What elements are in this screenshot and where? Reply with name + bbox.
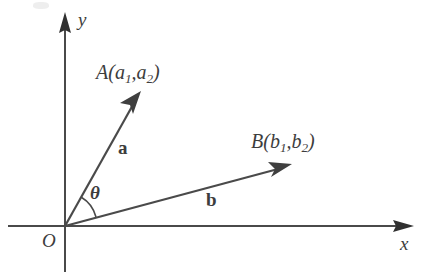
point-a-close-paren: ): [153, 61, 160, 83]
y-axis-label: y: [78, 10, 86, 29]
vector-a-shaft: [65, 103, 134, 226]
x-axis-arrowhead: [393, 220, 414, 232]
point-b-open-paren: (: [263, 130, 270, 152]
diagram-canvas: [0, 0, 423, 272]
point-b-label: B(b1,b2): [251, 131, 315, 154]
origin-label: O: [42, 231, 56, 250]
point-a-component-2: a: [136, 61, 146, 83]
point-b-component-2: b: [291, 130, 301, 152]
point-a-component-1: a: [115, 61, 125, 83]
y-axis-arrowhead: [59, 12, 71, 33]
vector-b-label: b: [206, 190, 217, 209]
vector-diagram: y x O A(a1,a2) B(b1,b2) a b θ: [0, 0, 423, 272]
point-a-open-paren: (: [108, 61, 115, 83]
point-b-close-paren: ): [308, 130, 315, 152]
vector-b-arrowhead: [268, 162, 292, 177]
point-a-label: A(a1,a2): [96, 62, 160, 85]
vector-a-label: a: [118, 138, 128, 157]
x-axis-label: x: [400, 234, 408, 253]
angle-theta-label: θ: [90, 183, 100, 202]
point-a-name: A: [96, 61, 108, 83]
point-b-name: B: [251, 130, 263, 152]
point-b-component-1: b: [270, 130, 280, 152]
